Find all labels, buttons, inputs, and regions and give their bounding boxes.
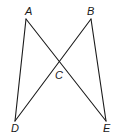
geometry-diagram: A B C D E: [0, 0, 118, 134]
segment-ae: [26, 19, 106, 121]
segment-bd: [15, 19, 91, 121]
segment-be: [91, 19, 106, 121]
label-a: A: [24, 5, 32, 17]
segment-ad: [15, 19, 26, 121]
label-c: C: [55, 69, 63, 81]
label-b: B: [87, 5, 94, 17]
label-e: E: [103, 122, 111, 134]
label-d: D: [11, 122, 19, 134]
